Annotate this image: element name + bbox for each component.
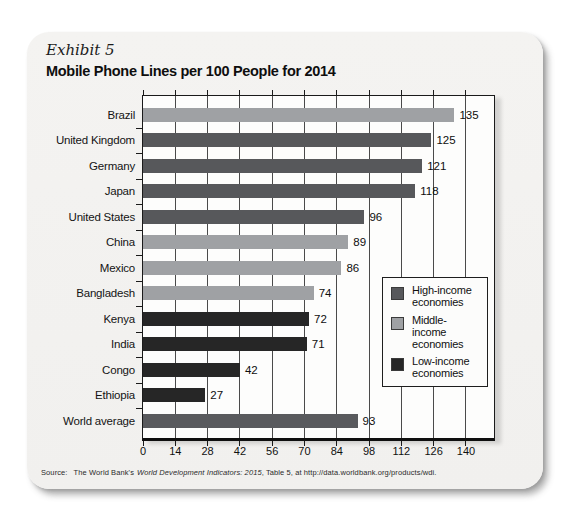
category-label-japan: Japan: [21, 183, 135, 199]
category-label-world-average: World average: [21, 413, 135, 429]
category-label-brazil: Brazil: [21, 107, 135, 123]
exhibit-card: Exhibit 5 Mobile Phone Lines per 100 Peo…: [27, 32, 543, 489]
category-label-mexico: Mexico: [21, 260, 135, 276]
bar-united-kingdom: [143, 133, 431, 147]
source-citation-title: World Development Indicators: 2015: [137, 468, 262, 477]
axis-tick-top: [304, 90, 305, 95]
bar-value-label: 135: [459, 108, 478, 122]
legend-box: High-income economies Middle-income econ…: [382, 277, 488, 387]
bar-value-label: 121: [427, 159, 446, 173]
bar-value-label: 125: [436, 133, 455, 147]
bar-value-label: 72: [314, 312, 327, 326]
bar-kenya: [143, 312, 309, 326]
y-axis-tick: [136, 128, 142, 129]
axis-tick-top: [369, 90, 370, 95]
bar-brazil: [143, 108, 454, 122]
low-income-swatch: [391, 358, 404, 371]
x-tick-label: 140: [451, 445, 481, 457]
bar-value-label: 96: [369, 210, 382, 224]
y-axis-tick: [136, 153, 142, 154]
bar-congo: [143, 363, 240, 377]
axis-tick-top: [143, 90, 144, 95]
y-axis-tick: [136, 383, 142, 384]
x-tick-label: 70: [289, 445, 319, 457]
category-label-germany: Germany: [21, 158, 135, 174]
chart-title: Mobile Phone Lines per 100 People for 20…: [46, 63, 336, 79]
bar-mexico: [143, 261, 341, 275]
high-income-swatch: [391, 287, 404, 300]
category-label-congo: Congo: [21, 362, 135, 378]
bar-value-label: 89: [353, 235, 366, 249]
y-axis-tick: [136, 408, 142, 409]
legend-item-low-income: Low-income economies: [391, 356, 480, 380]
legend-label: High-income economies: [412, 285, 472, 309]
bar-value-label: 27: [210, 388, 223, 402]
bar-china: [143, 235, 348, 249]
category-label-kenya: Kenya: [21, 311, 135, 327]
source-prefix: Source:: [41, 468, 68, 477]
bar-ethiopia: [143, 388, 205, 402]
source-text: , Table 5, at http://data.worldbank.org/…: [262, 468, 437, 477]
bar-value-label: 74: [319, 286, 332, 300]
x-tick-label: 126: [419, 445, 449, 457]
y-axis-tick: [136, 179, 142, 180]
axis-tick-top: [401, 90, 402, 95]
page-root: Exhibit 5 Mobile Phone Lines per 100 Peo…: [0, 0, 571, 519]
bar-value-label: 42: [245, 363, 258, 377]
axis-tick-top: [433, 90, 434, 95]
axis-tick-top: [239, 90, 240, 95]
x-tick-label: 14: [160, 445, 190, 457]
bar-value-label: 86: [346, 261, 359, 275]
bar-india: [143, 337, 307, 351]
axis-tick-top: [175, 90, 176, 95]
y-axis-tick: [136, 357, 142, 358]
bar-bangladesh: [143, 286, 314, 300]
category-label-china: China: [21, 234, 135, 250]
axis-tick-top: [207, 90, 208, 95]
category-label-ethiopia: Ethiopia: [21, 387, 135, 403]
bar-value-label: 93: [363, 414, 376, 428]
y-axis-tick: [136, 230, 142, 231]
axis-tick-top: [336, 90, 337, 95]
middle-income-swatch: [391, 317, 404, 330]
x-tick-label: 112: [386, 445, 416, 457]
bar-germany: [143, 159, 422, 173]
y-axis-tick: [136, 281, 142, 282]
source-text: The World Bank's: [74, 468, 134, 477]
bar-value-label: 118: [420, 184, 438, 198]
axis-tick-top: [272, 90, 273, 95]
x-tick-label: 56: [257, 445, 287, 457]
category-label-united-kingdom: United Kingdom: [21, 132, 135, 148]
category-label-bangladesh: Bangladesh: [21, 285, 135, 301]
legend-label: Low-income economies: [412, 356, 469, 380]
axis-tick-top: [465, 90, 466, 95]
exhibit-label: Exhibit 5: [46, 41, 115, 59]
y-axis-tick: [136, 204, 142, 205]
x-tick-label: 28: [193, 445, 223, 457]
category-label-india: India: [21, 336, 135, 352]
gridline: [369, 96, 370, 438]
x-tick-label: 84: [322, 445, 352, 457]
bar-value-label: 71: [312, 337, 325, 351]
legend-label: Middle-income economies: [412, 315, 480, 351]
y-axis-tick: [136, 255, 142, 256]
legend-item-high-income: High-income economies: [391, 285, 480, 309]
x-tick-label: 42: [225, 445, 255, 457]
bar-united-states: [143, 210, 364, 224]
plot-area: 014284256708498112126140135Brazil125Unit…: [142, 95, 495, 441]
source-line: Source:The World Bank'sWorld Development…: [41, 468, 437, 477]
y-axis-tick: [136, 332, 142, 333]
x-tick-label: 98: [354, 445, 384, 457]
bar-japan: [143, 184, 415, 198]
y-axis-tick: [136, 306, 142, 307]
category-label-united-states: United States: [21, 209, 135, 225]
bar-world-average: [143, 414, 358, 428]
legend-item-middle-income: Middle-income economies: [391, 315, 480, 351]
x-tick-label: 0: [128, 445, 158, 457]
